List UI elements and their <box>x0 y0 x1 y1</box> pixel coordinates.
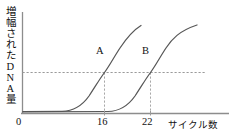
x-tick-label-16: 16 <box>97 116 108 127</box>
x-tick-label-0: 0 <box>16 116 21 127</box>
pcr-amplification-chart: 増幅されたDNA量 サイクル数 0 16 22 A B <box>0 0 233 139</box>
curve-label-b: B <box>142 45 149 56</box>
x-axis-label: サイクル数 <box>168 117 218 131</box>
curve-label-a: A <box>96 45 104 56</box>
curve-b <box>23 25 197 112</box>
x-tick-label-22: 22 <box>142 116 153 127</box>
curve-a <box>23 26 141 112</box>
